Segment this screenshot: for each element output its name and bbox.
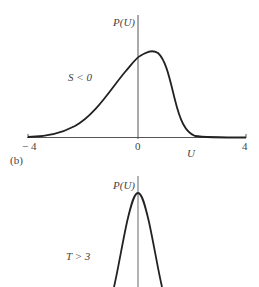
x-tick-label-4: 4 [242,141,248,152]
panel-label: (b) [10,155,23,166]
top-y-axis-label: P(U) [113,17,135,28]
x-axis-label: U [187,148,195,159]
figure-canvas [0,0,259,287]
bottom-y-axis-label: P(U) [113,180,135,191]
x-tick-label-neg4: − 4 [22,141,36,152]
skewed-density-curve [28,51,246,137]
x-tick-label-0: 0 [135,141,141,152]
skewness-annotation: S < 0 [68,72,92,83]
kurtosis-annotation: T > 3 [66,251,90,262]
